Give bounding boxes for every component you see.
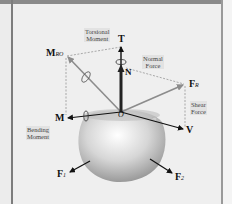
bending-moment-label: Bending Moment <box>26 126 50 140</box>
normal-force-arrowhead <box>118 64 125 72</box>
symbol-N: N <box>125 67 132 77</box>
symbol-V: V <box>186 124 193 135</box>
torsional-moment-label-line1: Torsional <box>85 28 109 35</box>
shear-force-label-line1: Shear <box>191 101 206 108</box>
symbol-F1-subscript: 1 <box>63 172 66 178</box>
symbol-F1: F1 <box>57 168 66 179</box>
normal-force-label: Normal Force <box>142 55 164 69</box>
symbol-O-origin: O <box>118 110 124 119</box>
torsional-moment-label: Torsional Moment <box>84 28 110 42</box>
symbol-F-R-subscript: R <box>195 82 199 88</box>
symbol-F2: F2 <box>175 171 184 182</box>
resultant-force-arrow <box>121 85 183 112</box>
symbol-M-Ro: MRO <box>46 47 63 58</box>
shear-force-label: Shear Force <box>190 101 207 115</box>
shear-force-label-line2: Force <box>191 108 206 115</box>
torsional-moment-label-line2: Moment <box>85 35 109 42</box>
resultant-moment-arrow <box>68 57 121 112</box>
bending-moment-label-line1: Bending <box>27 126 49 133</box>
symbol-M-Ro-subscript: RO <box>55 51 63 57</box>
normal-force-label-line1: Normal <box>143 55 163 62</box>
normal-force-label-line2: Force <box>143 62 163 69</box>
symbol-F-R: FR <box>189 78 199 89</box>
symbol-T: T <box>118 33 125 44</box>
symbol-F2-subscript: 2 <box>181 175 184 181</box>
cut-body <box>78 109 165 182</box>
symbol-M: M <box>55 112 64 123</box>
bending-moment-label-line2: Moment <box>27 133 49 140</box>
